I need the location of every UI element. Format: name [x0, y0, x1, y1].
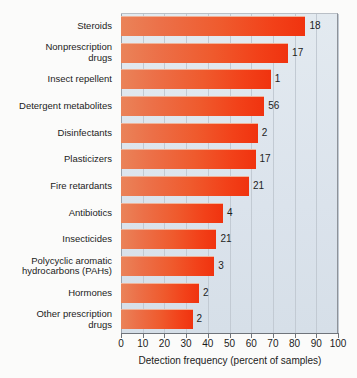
category-label-line: Insect repellent	[48, 74, 112, 85]
x-axis-title: Detection frequency (percent of samples)	[121, 355, 339, 366]
category-label-line: Hormones	[68, 288, 112, 299]
category-label-line: Insecticides	[62, 234, 112, 245]
x-tick-label: 80	[289, 338, 300, 349]
bar-value-label: 2	[258, 123, 268, 143]
x-tick-label: 10	[137, 338, 148, 349]
bar-series: 181715621721421322	[121, 13, 338, 333]
bar-value-label: 17	[256, 149, 271, 169]
category-axis-labels: SteroidsNonprescriptiondrugsInsect repel…	[0, 13, 116, 333]
category-label: Antibiotics	[0, 200, 116, 227]
bar-value-label: 4	[223, 203, 233, 223]
x-tick-label: 50	[224, 338, 235, 349]
bar	[121, 149, 256, 169]
bar-row: 2	[121, 280, 338, 307]
bar	[121, 309, 193, 329]
bar	[121, 229, 216, 249]
x-tick-label: 30	[181, 338, 192, 349]
bar	[121, 16, 305, 36]
x-tick-label: 90	[311, 338, 322, 349]
category-label: Fire retardants	[0, 173, 116, 200]
category-label-line: drugs	[45, 53, 112, 64]
bar-row: 2	[121, 306, 338, 333]
category-label: Insecticides	[0, 226, 116, 253]
category-label-line: Other prescription	[36, 309, 112, 320]
bar-row: 17	[121, 146, 338, 173]
category-label-line: Antibiotics	[69, 208, 112, 219]
x-tick-label: 20	[159, 338, 170, 349]
bar-chart: SteroidsNonprescriptiondrugsInsect repel…	[0, 0, 357, 378]
x-tick-label: 60	[246, 338, 257, 349]
category-label-line: Fire retardants	[50, 181, 112, 192]
category-label-line: Disinfectants	[58, 128, 112, 139]
bar-value-label: 17	[288, 43, 303, 63]
category-label-line: Plasticizers	[64, 154, 112, 165]
category-label: Disinfectants	[0, 120, 116, 147]
bar-row: 18	[121, 13, 338, 40]
bar-row: 56	[121, 93, 338, 120]
category-label-line: Steroids	[77, 21, 112, 32]
category-label: Other prescriptiondrugs	[0, 306, 116, 333]
x-tick-label: 40	[202, 338, 213, 349]
bar-value-label: 21	[216, 229, 231, 249]
bar	[121, 96, 264, 116]
bar-value-label: 21	[249, 176, 264, 196]
category-label-line: hydrocarbons (PAHs)	[22, 266, 112, 277]
bar	[121, 176, 249, 196]
bar-value-label: 1	[271, 69, 281, 89]
bar-row: 21	[121, 173, 338, 200]
category-label: Hormones	[0, 280, 116, 307]
bar	[121, 283, 199, 303]
gridline-100	[338, 14, 339, 333]
bar	[121, 43, 288, 63]
category-label: Polycyclic aromatichydrocarbons (PAHs)	[0, 253, 116, 280]
bar	[121, 69, 271, 89]
bar-row: 17	[121, 40, 338, 67]
bar	[121, 123, 258, 143]
bar-value-label: 18	[305, 16, 320, 36]
category-label: Plasticizers	[0, 146, 116, 173]
category-label: Steroids	[0, 13, 116, 40]
category-label: Detergent metabolites	[0, 93, 116, 120]
bar-row: 3	[121, 253, 338, 280]
x-tick-label: 100	[330, 338, 347, 349]
bar-row: 21	[121, 226, 338, 253]
bar	[121, 203, 223, 223]
category-label: Nonprescriptiondrugs	[0, 40, 116, 67]
bar-row: 2	[121, 120, 338, 147]
category-label-line: Detergent metabolites	[19, 101, 112, 112]
x-tick-label: 0	[118, 338, 124, 349]
bar-row: 4	[121, 200, 338, 227]
bar-value-label: 3	[214, 256, 224, 276]
bar	[121, 256, 214, 276]
bar-value-label: 56	[264, 96, 279, 116]
x-tick-label: 70	[267, 338, 278, 349]
category-label: Insect repellent	[0, 66, 116, 93]
category-label-line: drugs	[36, 320, 112, 331]
bar-row: 1	[121, 66, 338, 93]
bar-value-label: 2	[199, 283, 209, 303]
bar-value-label: 2	[193, 309, 203, 329]
